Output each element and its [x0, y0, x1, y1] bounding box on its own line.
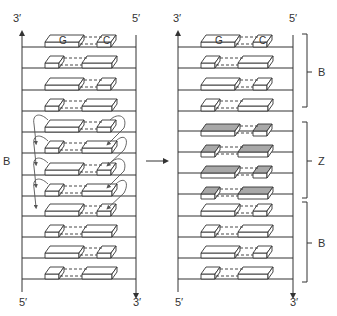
region-label-b-lower: B	[318, 238, 325, 249]
left-base-g: G	[59, 36, 67, 46]
rp-z-row-2	[201, 145, 273, 157]
base-pair-row-5	[45, 120, 116, 132]
rp-row-11	[201, 246, 272, 258]
right-base-pairs-b-upper	[201, 35, 273, 111]
rp-row-10	[201, 225, 273, 237]
right-panel-3prime-bottom: 3′	[290, 297, 298, 308]
base-pair-row-4	[45, 99, 117, 111]
base-pair-row-2	[45, 56, 117, 68]
base-pair-row-11	[45, 246, 116, 258]
rp-row-9	[201, 204, 272, 216]
left-base-c: C	[103, 36, 110, 46]
rp-z-row-3	[201, 166, 272, 178]
region-label-z: Z	[318, 156, 325, 167]
left-panel-b-label: B	[3, 156, 10, 167]
rp-z-row-1	[201, 124, 272, 136]
b-to-z-dna-diagram	[0, 0, 337, 316]
base-pair-row-7	[45, 163, 116, 175]
rp-row-4	[201, 99, 273, 111]
right-base-pairs-z	[201, 124, 273, 199]
right-base-c: C	[259, 36, 266, 46]
rp-row-12	[201, 267, 273, 279]
base-pair-row-6	[45, 141, 117, 153]
base-pair-row-10	[45, 225, 117, 237]
right-base-pairs-b-lower	[201, 204, 273, 279]
rp-row-2	[201, 56, 273, 68]
left-base-pairs	[45, 35, 117, 279]
right-panel-3prime-top: 3′	[173, 13, 181, 24]
region-brackets	[302, 34, 312, 282]
left-panel-5prime-top: 5′	[132, 13, 140, 24]
right-base-g: G	[215, 36, 223, 46]
left-panel-3prime-bottom: 3′	[133, 297, 141, 308]
base-pair-row-9	[45, 204, 116, 216]
left-panel-5prime-bottom: 5′	[19, 297, 27, 308]
rp-row-3	[201, 78, 272, 90]
right-panel-5prime-bottom: 5′	[175, 297, 183, 308]
base-pair-row-12	[45, 267, 117, 279]
right-panel-5prime-top: 5′	[289, 13, 297, 24]
rp-z-row-4	[201, 187, 273, 199]
base-pair-row-8	[45, 184, 117, 196]
bracket-z	[302, 122, 312, 198]
base-pair-row-3	[45, 78, 116, 90]
left-panel-3prime-top: 3′	[13, 13, 21, 24]
bracket-b-upper	[302, 34, 312, 107]
region-label-b-upper: B	[318, 67, 325, 78]
bracket-b-lower	[302, 202, 312, 282]
